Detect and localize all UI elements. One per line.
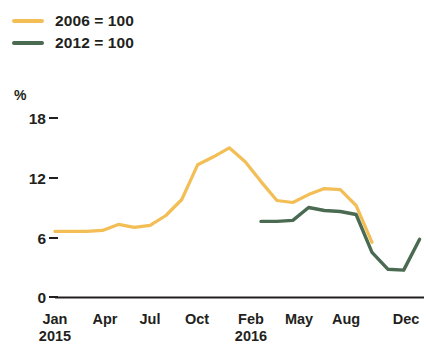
x-tick-month: Apr xyxy=(93,311,118,327)
x-tick-may: May xyxy=(285,311,313,328)
x-tick-month: May xyxy=(285,311,313,327)
x-tick-feb-2016: Feb 2016 xyxy=(235,311,267,344)
x-tick-month: Jan xyxy=(42,311,67,327)
x-tick-year: 2015 xyxy=(39,328,71,345)
x-tick-month: Feb xyxy=(238,311,264,327)
series-line-2012 xyxy=(261,208,420,271)
x-tick-month: Jul xyxy=(140,311,161,327)
x-tick-aug: Aug xyxy=(332,311,360,328)
series-line-2006 xyxy=(55,148,372,243)
x-tick-jul: Jul xyxy=(140,311,161,328)
y-tick-marks xyxy=(49,118,58,297)
x-tick-dec: Dec xyxy=(393,311,420,328)
x-tick-month: Oct xyxy=(185,311,209,327)
line-chart: 2006 = 100 2012 = 100 % 18 12 6 0 Jan xyxy=(0,0,428,351)
chart-plot-area xyxy=(0,0,428,351)
x-tick-month: Dec xyxy=(393,311,420,327)
x-tick-jan-2015: Jan 2015 xyxy=(39,311,71,344)
x-tick-apr: Apr xyxy=(93,311,118,328)
x-tick-month: Aug xyxy=(332,311,360,327)
x-tick-oct: Oct xyxy=(185,311,209,328)
x-tick-year: 2016 xyxy=(235,328,267,345)
